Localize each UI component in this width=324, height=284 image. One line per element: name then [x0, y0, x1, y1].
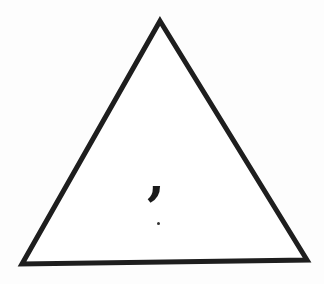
small-dot	[157, 222, 160, 225]
triangle-outline	[0, 0, 324, 284]
diagram-canvas: ,	[0, 0, 324, 284]
comma-symbol: ,	[147, 150, 165, 202]
